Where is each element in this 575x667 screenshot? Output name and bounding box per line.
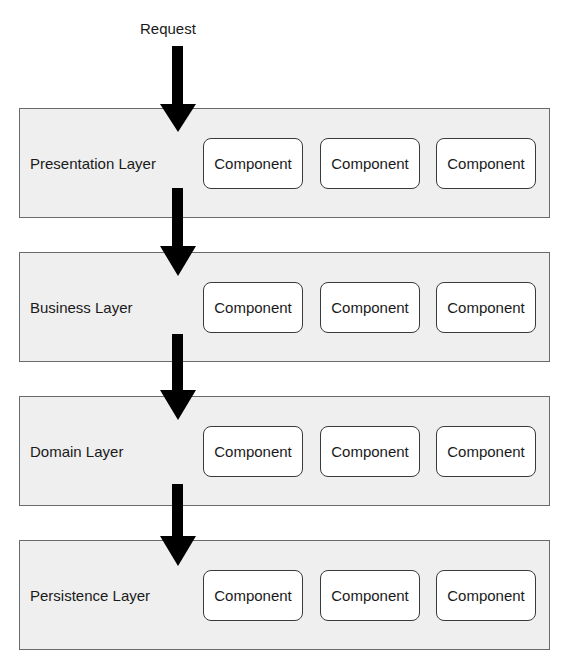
- component-box: Component: [320, 282, 420, 333]
- component-box: Component: [436, 570, 536, 621]
- arrow-down-icon: [160, 334, 196, 420]
- component-box: Component: [320, 426, 420, 477]
- component-box: Component: [203, 426, 303, 477]
- component-box: Component: [203, 282, 303, 333]
- request-label: Request: [140, 20, 196, 37]
- layer-presentation: Presentation Layer Component Component C…: [19, 108, 550, 218]
- component-box: Component: [203, 138, 303, 189]
- layer-label: Presentation Layer: [30, 155, 156, 172]
- arrow-down-icon: [160, 188, 196, 276]
- arrow-down-icon: [160, 46, 196, 132]
- component-box: Component: [320, 570, 420, 621]
- component-box: Component: [436, 138, 536, 189]
- component-box: Component: [203, 570, 303, 621]
- layer-label: Domain Layer: [30, 443, 123, 460]
- component-box: Component: [436, 426, 536, 477]
- layer-domain: Domain Layer Component Component Compone…: [19, 396, 550, 506]
- layer-business: Business Layer Component Component Compo…: [19, 252, 550, 362]
- layer-label: Business Layer: [30, 299, 133, 316]
- component-box: Component: [436, 282, 536, 333]
- arrow-down-icon: [160, 484, 196, 566]
- layer-persistence: Persistence Layer Component Component Co…: [19, 540, 550, 650]
- layer-label: Persistence Layer: [30, 587, 150, 604]
- component-box: Component: [320, 138, 420, 189]
